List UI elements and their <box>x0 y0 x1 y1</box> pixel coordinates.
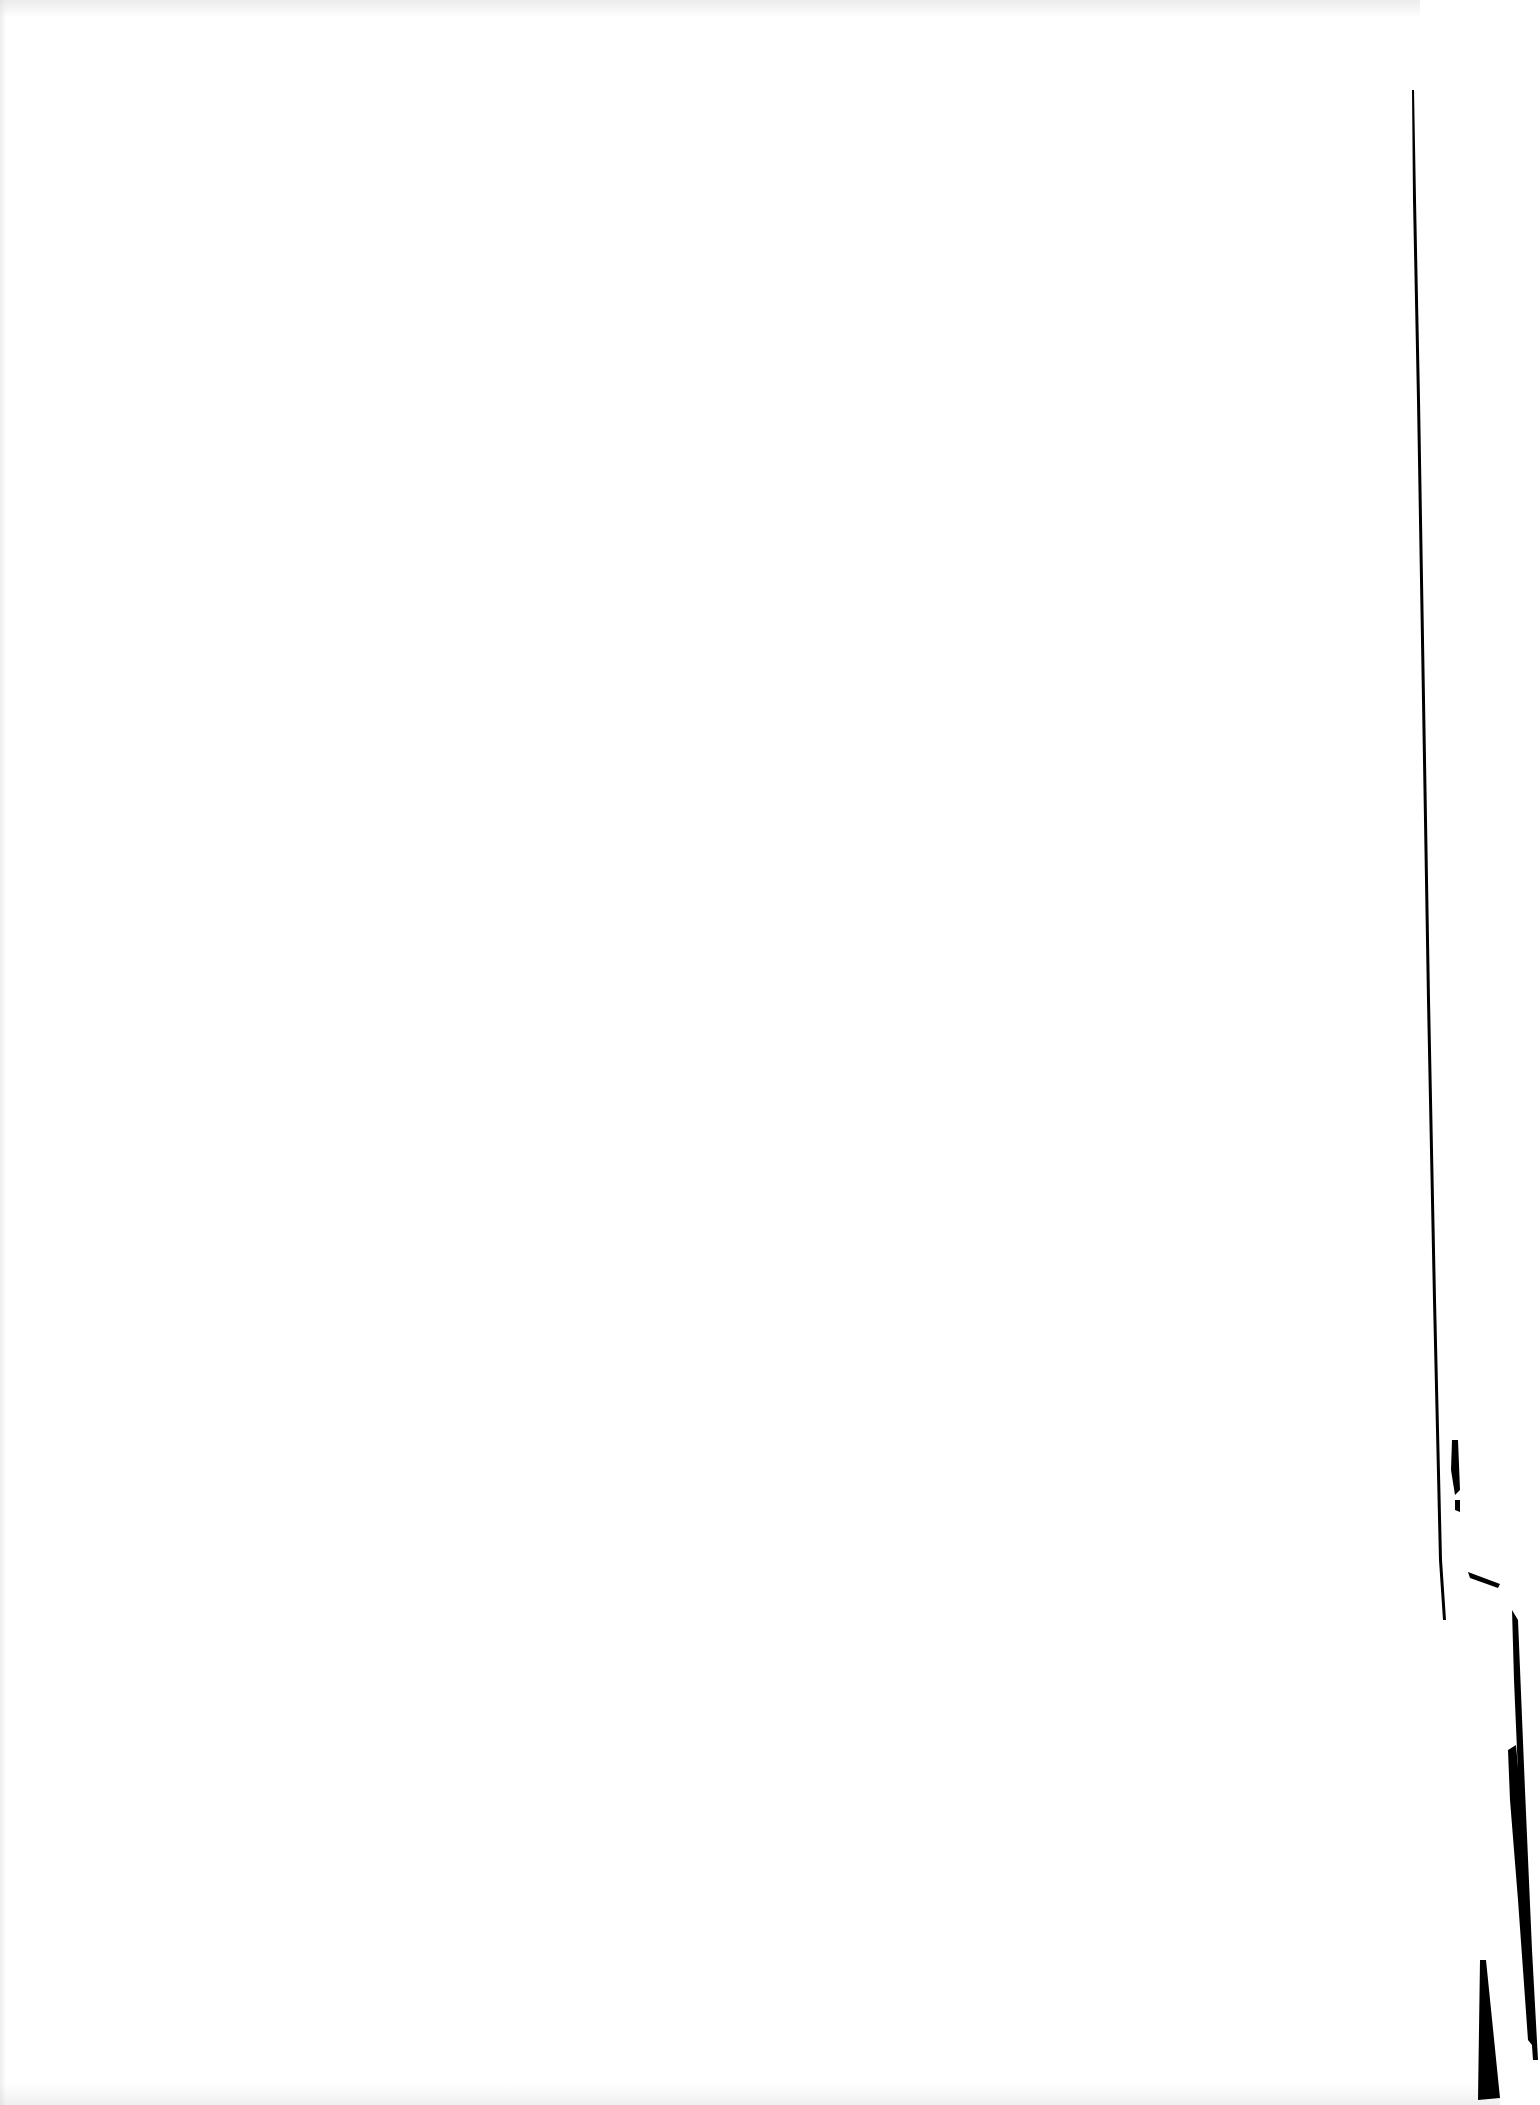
blank-document-page <box>0 0 1540 2105</box>
binding-edge-shadow <box>0 0 1540 2105</box>
